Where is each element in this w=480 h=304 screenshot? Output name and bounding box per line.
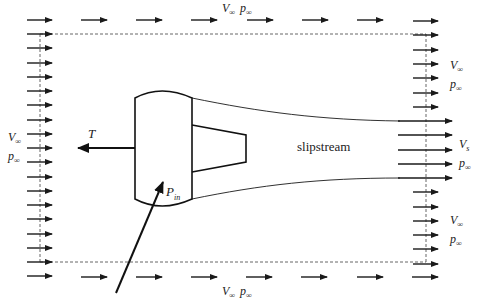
- top-flow-arrows: [81, 20, 438, 21]
- top-freestream-label: V∞ p∞: [222, 2, 252, 19]
- slipstream-label: slipstream: [297, 141, 350, 153]
- power-symbol: P: [166, 184, 174, 199]
- velocity-subscript: ∞: [229, 291, 235, 300]
- bottom-freestream-label: V∞ p∞: [222, 285, 252, 302]
- thrust-label: T: [88, 128, 95, 140]
- engine-body: [135, 91, 192, 206]
- slipstream-outflow-arrows: [398, 121, 452, 178]
- power-subscript: in: [174, 193, 180, 202]
- right-outflow-lower-arrows: [413, 192, 438, 264]
- pressure-subscript: ∞: [456, 85, 462, 94]
- pressure-subscript: ∞: [246, 291, 252, 300]
- diagram-canvas: [0, 0, 480, 304]
- pressure-subscript: ∞: [465, 164, 471, 173]
- velocity-subscript: ∞: [457, 65, 463, 74]
- left-inflow-arrows: [27, 20, 52, 276]
- power-input-label: Pin: [166, 186, 180, 204]
- right-slipstream-label: Vs p∞: [459, 137, 471, 176]
- velocity-subscript: s: [466, 144, 469, 153]
- right-upper-freestream-label: V∞ p∞: [450, 58, 463, 97]
- velocity-subscript: ∞: [15, 137, 21, 146]
- velocity-subscript: ∞: [457, 220, 463, 229]
- slipstream-boundary: [192, 98, 400, 199]
- right-lower-freestream-label: V∞ p∞: [450, 213, 463, 252]
- velocity-subscript: ∞: [229, 8, 235, 17]
- engine-nozzle: [192, 125, 246, 172]
- pressure-subscript: ∞: [14, 157, 20, 166]
- left-freestream-label: V∞ p∞: [8, 130, 21, 169]
- pressure-subscript: ∞: [246, 8, 252, 17]
- pressure-subscript: ∞: [456, 240, 462, 249]
